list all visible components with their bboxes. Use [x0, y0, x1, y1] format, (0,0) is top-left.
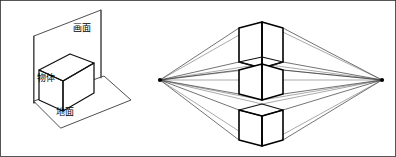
perspective-diagram-svg [0, 0, 396, 157]
ray-bot-right-2 [283, 80, 382, 140]
left-vanishing-point [158, 78, 162, 82]
right-vanishing-point [380, 78, 384, 82]
ray-top-left-2 [160, 62, 239, 80]
picture-plane-label: 画面 [73, 24, 91, 33]
ray-mid-right-1 [283, 70, 382, 80]
ray-mid-right-2 [283, 80, 382, 94]
figure-root: 画面 物体 地面 [0, 0, 396, 157]
ray-top-right-2 [283, 62, 382, 80]
ray-top-right-1 [283, 28, 382, 80]
ray-bot-right-1 [283, 80, 382, 110]
object-label: 物体 [37, 74, 55, 83]
cube-at-eye-level [239, 64, 283, 100]
ray-bot-left-2 [160, 80, 239, 140]
right-diagram-group [158, 22, 384, 146]
ray-mid-left-1 [160, 70, 239, 80]
ground-plane-label: 地面 [56, 108, 74, 117]
cube-above-eye-level [239, 22, 283, 68]
cube-below-eye-level [239, 104, 283, 146]
